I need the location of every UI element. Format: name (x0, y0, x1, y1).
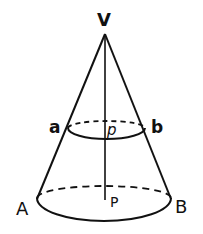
label-lower-right: B (175, 196, 187, 217)
label-upper-center: p (106, 121, 117, 139)
label-upper-left: a (49, 117, 60, 137)
label-lower-left: A (16, 198, 29, 219)
label-lower-center: P (110, 194, 118, 210)
lower-ellipse-back (37, 186, 171, 198)
left-slant-line (37, 34, 105, 199)
lower-ellipse-front (37, 198, 171, 221)
label-vertex: V (97, 9, 111, 30)
cone-diagram: V a b p A B P (0, 0, 203, 234)
label-upper-right: b (151, 117, 163, 137)
